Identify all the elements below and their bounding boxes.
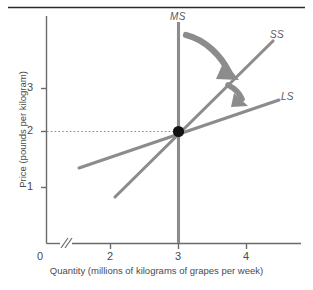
origin-label: 0: [37, 250, 43, 262]
curve-label-ls: LS: [281, 91, 294, 102]
y-axis-title: Price (pounds per kilogram): [17, 40, 28, 220]
arrow-ms-to-ss-icon: [186, 35, 239, 80]
curve-ss: [115, 41, 273, 197]
x-tick-label-3: 3: [175, 250, 181, 262]
y-tick-label-1: 1: [27, 180, 33, 192]
curve-label-ms: MS: [170, 11, 186, 22]
y-tick-label-3: 3: [27, 81, 33, 93]
axis-break-icon: [61, 238, 72, 248]
supply-curve-chart: [0, 0, 313, 290]
x-tick-label-4: 4: [243, 250, 249, 262]
y-tick-label-2: 2: [27, 124, 33, 136]
curve-label-ss: SS: [270, 29, 284, 40]
arrow-ss-to-ls-icon: [228, 85, 248, 107]
x-tick-label-2: 2: [107, 250, 113, 262]
equilibrium-point-marker: [173, 126, 184, 137]
x-axis-title: Quantity (millions of kilograms of grape…: [0, 265, 313, 276]
